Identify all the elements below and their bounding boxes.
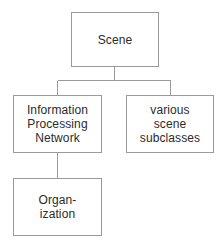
node-information-processing-network[interactable]: Information Processing Network [13,95,102,153]
node-scene-label: Scene [98,33,133,47]
node-various-scene-subclasses[interactable]: various scene subclasses [126,95,214,153]
node-information-processing-network-label: Information Processing Network [27,103,88,145]
node-organization[interactable]: Organ- ization [13,178,102,236]
node-organization-label: Organ- ization [39,193,77,221]
node-scene[interactable]: Scene [71,12,159,67]
diagram-canvas: Scene Information Processing Network var… [0,0,221,241]
node-various-scene-subclasses-label: various scene subclasses [140,103,200,145]
